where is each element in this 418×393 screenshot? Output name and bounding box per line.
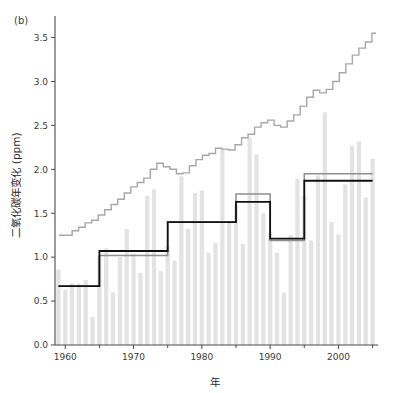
bar: [193, 193, 197, 345]
bar: [282, 292, 286, 345]
y-axis-title: 二氧化碳年变化 (ppm): [10, 132, 22, 237]
x-axis-ticks: 19601970198019902000: [54, 345, 373, 362]
co2-annual-change-chart: (b) 二氧化碳年变化 (ppm) 年 0.00.51.01.52.02.53.…: [0, 0, 418, 393]
bar: [343, 184, 347, 345]
bar: [248, 138, 252, 345]
figure-panel-b: (b) 二氧化碳年变化 (ppm) 年 0.00.51.01.52.02.53.…: [0, 0, 418, 393]
bar: [111, 292, 115, 345]
bar: [152, 190, 156, 345]
bar: [336, 234, 340, 345]
bar: [172, 261, 176, 345]
x-tick-label: 2000: [327, 352, 350, 362]
bar: [84, 280, 88, 345]
bar: [70, 284, 74, 345]
bar: [370, 159, 374, 345]
bar: [207, 253, 211, 345]
y-axis-ticks: 0.00.51.01.52.02.53.03.5: [34, 33, 55, 350]
bar: [323, 112, 327, 345]
bar: [138, 273, 142, 345]
x-tick-label: 1960: [54, 352, 77, 362]
bar: [77, 284, 81, 345]
bar: [131, 254, 135, 345]
bar: [166, 246, 170, 345]
y-tick-label: 2.0: [34, 165, 49, 175]
cumulative-co2-rise-line: [59, 33, 376, 235]
bar: [104, 248, 108, 345]
bar: [316, 175, 320, 345]
bar: [254, 154, 258, 345]
bar: [220, 149, 224, 345]
bar: [159, 271, 163, 345]
y-tick-label: 3.5: [34, 33, 48, 43]
bar: [200, 190, 204, 345]
y-tick-label: 3.0: [34, 77, 49, 87]
y-tick-label: 1.5: [34, 209, 48, 219]
bar: [350, 146, 354, 345]
bar: [241, 244, 245, 345]
bar: [179, 176, 183, 345]
x-tick-label: 1980: [190, 352, 213, 362]
bar: [268, 233, 272, 345]
x-axis-title: 年: [210, 376, 220, 388]
bar: [295, 179, 299, 345]
bar: [125, 229, 129, 345]
panel-label: (b): [14, 15, 28, 26]
x-tick-label: 1970: [122, 352, 145, 362]
y-tick-label: 0.5: [34, 296, 48, 306]
bar: [90, 317, 94, 345]
bar: [63, 290, 67, 345]
y-tick-label: 0.0: [34, 340, 49, 350]
bar: [261, 213, 265, 345]
bar: [234, 204, 238, 345]
bar: [56, 269, 60, 345]
y-tick-label: 2.5: [34, 121, 48, 131]
bar: [227, 222, 231, 345]
bar-series-annual-co2-growth: [56, 112, 374, 345]
bar: [145, 196, 149, 345]
bar: [329, 222, 333, 345]
bar: [213, 243, 217, 345]
bar: [118, 257, 122, 345]
bar: [309, 240, 313, 345]
bar: [357, 141, 361, 345]
y-tick-label: 1.0: [34, 252, 49, 262]
bar: [364, 197, 368, 345]
bar: [289, 235, 293, 345]
bar: [275, 253, 279, 345]
bar: [186, 229, 190, 345]
x-tick-label: 1990: [259, 352, 282, 362]
